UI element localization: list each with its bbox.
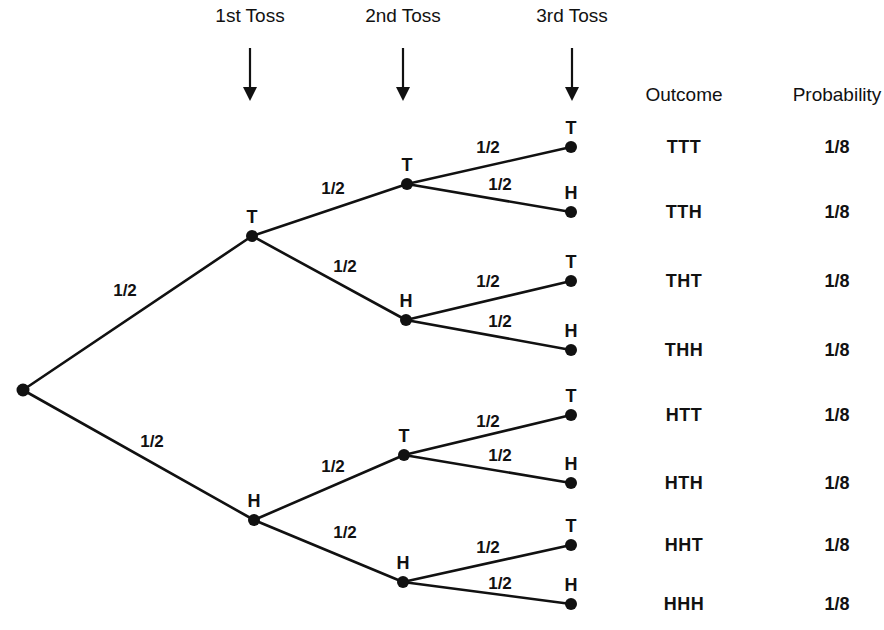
- stage-arrow-head-3: [565, 87, 579, 101]
- tree-node-label-THT: T: [566, 252, 577, 272]
- tree-node-HHH: [565, 598, 577, 610]
- edge-label-HT-to-HTT: 1/2: [476, 412, 500, 431]
- edge-label-TT-to-TTT: 1/2: [476, 138, 500, 157]
- probability-column-header: Probability: [793, 84, 882, 105]
- tree-node-HTT: [565, 409, 577, 421]
- tree-node-TTH: [565, 206, 577, 218]
- tree-node-TTT: [565, 141, 577, 153]
- tree-node-TH: [400, 314, 412, 326]
- edge-label-root-to-H: 1/2: [140, 432, 164, 451]
- outcome-row: HTT1/8: [666, 405, 850, 425]
- tree-edge-root-to-H: [23, 390, 254, 520]
- tree-edges-group: [23, 147, 571, 604]
- edge-label-T-to-TH: 1/2: [333, 257, 357, 276]
- edge-label-H-to-HH: 1/2: [333, 523, 357, 542]
- edge-label-root-to-T: 1/2: [113, 281, 137, 300]
- stage-header-1: 1st Toss: [215, 5, 284, 26]
- tree-node-label-TTH: H: [565, 183, 578, 203]
- outcome-value-4: HTT: [666, 405, 703, 425]
- probability-value-4: 1/8: [824, 405, 849, 425]
- tree-node-label-HHH: H: [565, 575, 578, 595]
- outcome-row: TTH1/8: [666, 202, 850, 222]
- stage-arrows-group: [243, 48, 579, 101]
- probability-value-3: 1/8: [824, 340, 849, 360]
- outcome-rows-group: TTT1/8TTH1/8THT1/8THH1/8HTT1/8HTH1/8HHT1…: [664, 137, 850, 614]
- tree-node-label-T: T: [247, 207, 258, 227]
- edge-label-TT-to-TTH: 1/2: [488, 175, 512, 194]
- probability-value-5: 1/8: [824, 473, 849, 493]
- edge-label-T-to-TT: 1/2: [321, 179, 345, 198]
- edge-labels-group: 1/21/21/21/21/21/21/21/21/21/21/21/21/21…: [113, 138, 512, 593]
- tree-node-THT: [565, 275, 577, 287]
- tree-node-label-H: H: [248, 491, 261, 511]
- outcome-column-header: Outcome: [645, 84, 722, 105]
- outcome-row: TTT1/8: [667, 137, 850, 157]
- tree-edge-H-to-HH: [254, 520, 403, 582]
- outcome-value-3: THH: [665, 340, 704, 360]
- tree-node-root: [17, 384, 30, 397]
- tree-node-HHT: [565, 539, 577, 551]
- stage-arrow-head-1: [243, 87, 257, 101]
- probability-value-2: 1/8: [824, 271, 849, 291]
- tree-node-H: [248, 514, 260, 526]
- outcome-value-0: TTT: [667, 137, 702, 157]
- outcome-row: HTH1/8: [665, 473, 850, 493]
- edge-label-HH-to-HHT: 1/2: [476, 538, 500, 557]
- probability-value-6: 1/8: [824, 535, 849, 555]
- node-labels-group: THTHTHTHTHTHTH: [247, 118, 578, 595]
- tree-node-THH: [565, 344, 577, 356]
- column-headers-group: OutcomeProbability: [645, 84, 881, 105]
- edge-label-H-to-HT: 1/2: [321, 457, 345, 476]
- probability-value-7: 1/8: [824, 594, 849, 614]
- tree-node-TT: [401, 178, 413, 190]
- tree-node-HT: [398, 449, 410, 461]
- tree-node-HH: [397, 576, 409, 588]
- outcome-row: THT1/8: [666, 271, 850, 291]
- outcome-row: HHH1/8: [664, 594, 850, 614]
- tree-node-label-HT: T: [399, 426, 410, 446]
- tree-node-label-TH: H: [400, 291, 413, 311]
- tree-node-label-HH: H: [397, 553, 410, 573]
- stage-headers-group: 1st Toss2nd Toss3rd Toss: [215, 5, 607, 26]
- outcome-value-1: TTH: [666, 202, 703, 222]
- probability-tree-diagram: 1/21/21/21/21/21/21/21/21/21/21/21/21/21…: [0, 0, 884, 630]
- tree-node-HTH: [565, 477, 577, 489]
- outcome-value-6: HHT: [665, 535, 704, 555]
- edge-label-TH-to-THH: 1/2: [488, 312, 512, 331]
- probability-value-1: 1/8: [824, 202, 849, 222]
- outcome-value-2: THT: [666, 271, 703, 291]
- tree-node-label-HHT: T: [566, 516, 577, 536]
- edge-label-HH-to-HHH: 1/2: [488, 574, 512, 593]
- tree-edge-T-to-TH: [252, 236, 406, 320]
- edge-label-HT-to-HTH: 1/2: [488, 446, 512, 465]
- tree-node-T: [246, 230, 258, 242]
- outcome-row: THH1/8: [665, 340, 850, 360]
- tree-canvas: 1/21/21/21/21/21/21/21/21/21/21/21/21/21…: [0, 0, 884, 630]
- tree-edge-root-to-T: [23, 236, 252, 390]
- tree-node-label-TTT: T: [566, 118, 577, 138]
- probability-value-0: 1/8: [824, 137, 849, 157]
- stage-header-2: 2nd Toss: [365, 5, 441, 26]
- outcome-row: HHT1/8: [665, 535, 850, 555]
- tree-node-label-HTT: T: [566, 386, 577, 406]
- edge-label-TH-to-THT: 1/2: [476, 272, 500, 291]
- tree-node-label-HTH: H: [565, 454, 578, 474]
- stage-arrow-head-2: [396, 87, 410, 101]
- tree-node-label-TT: T: [402, 155, 413, 175]
- tree-edge-HH-to-HHH: [403, 582, 571, 604]
- stage-header-3: 3rd Toss: [536, 5, 607, 26]
- outcome-value-7: HHH: [664, 594, 705, 614]
- tree-node-label-THH: H: [565, 321, 578, 341]
- outcome-value-5: HTH: [665, 473, 704, 493]
